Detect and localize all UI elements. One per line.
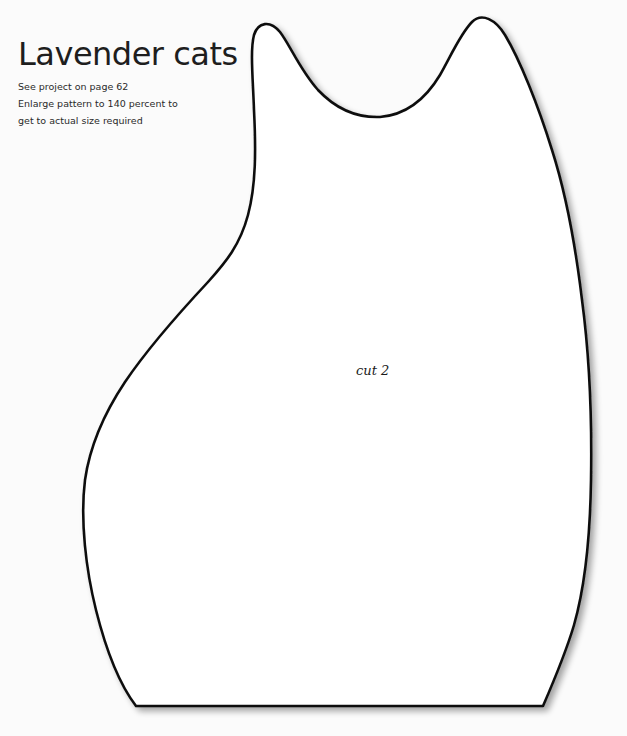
cut-instruction-label: cut 2 bbox=[356, 363, 389, 378]
pattern-header: Lavender cats See project on page 62 Enl… bbox=[18, 34, 238, 129]
pattern-instructions: See project on page 62 Enlarge pattern t… bbox=[18, 78, 238, 129]
instruction-line-enlarge: Enlarge pattern to 140 percent to bbox=[18, 95, 238, 112]
instruction-line-project-page: See project on page 62 bbox=[18, 78, 238, 95]
page-title: Lavender cats bbox=[18, 34, 238, 74]
instruction-line-actual-size: get to actual size required bbox=[18, 112, 238, 129]
